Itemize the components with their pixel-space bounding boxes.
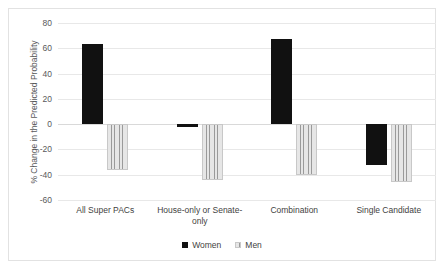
gridline-40 <box>58 74 436 75</box>
gridline--40 <box>58 175 436 176</box>
legend-item-men[interactable]: Men <box>235 240 262 250</box>
y-tick-label--20: -20 <box>40 144 52 154</box>
category-label-1: House-only or Senate-only <box>153 205 248 227</box>
bar-women-0[interactable] <box>82 44 103 124</box>
y-tick-label-60: 60 <box>43 43 52 53</box>
bar-women-2[interactable] <box>271 39 292 124</box>
y-tick-label--40: -40 <box>40 170 52 180</box>
gridline-20 <box>58 99 436 100</box>
chart-legend: WomenMen <box>9 240 435 250</box>
gridline--60 <box>58 200 436 201</box>
bar-men-0[interactable] <box>107 124 128 170</box>
y-tick-label-40: 40 <box>43 69 52 79</box>
legend-label-men: Men <box>245 240 262 250</box>
category-label-2: Combination <box>247 205 342 216</box>
y-tick-label-20: 20 <box>43 94 52 104</box>
plot-area: 806040200-20-40-60 <box>58 23 436 200</box>
y-tick-label-80: 80 <box>43 18 52 28</box>
bar-men-2[interactable] <box>296 124 317 175</box>
bar-women-1[interactable] <box>177 124 198 127</box>
legend-label-women: Women <box>192 240 221 250</box>
chart-frame: % Change in the Predicted Probability 80… <box>8 8 436 261</box>
men-swatch-icon <box>235 242 241 248</box>
y-tick-label-0: 0 <box>47 119 52 129</box>
gridline-60 <box>58 48 436 49</box>
category-label-3: Single Candidate <box>342 205 437 216</box>
women-swatch-icon <box>182 242 188 248</box>
category-axis: All Super PACsHouse-only or Senate-onlyC… <box>58 205 436 235</box>
category-label-0: All Super PACs <box>58 205 153 216</box>
y-axis-title: % Change in the Predicted Probability <box>27 9 41 214</box>
y-axis-title-text: % Change in the Predicted Probability <box>29 40 39 183</box>
bar-men-1[interactable] <box>202 124 223 180</box>
gridline-80 <box>58 23 436 24</box>
bar-men-3[interactable] <box>391 124 412 182</box>
legend-item-women[interactable]: Women <box>182 240 221 250</box>
bar-women-3[interactable] <box>366 124 387 164</box>
y-tick-label--60: -60 <box>40 195 52 205</box>
